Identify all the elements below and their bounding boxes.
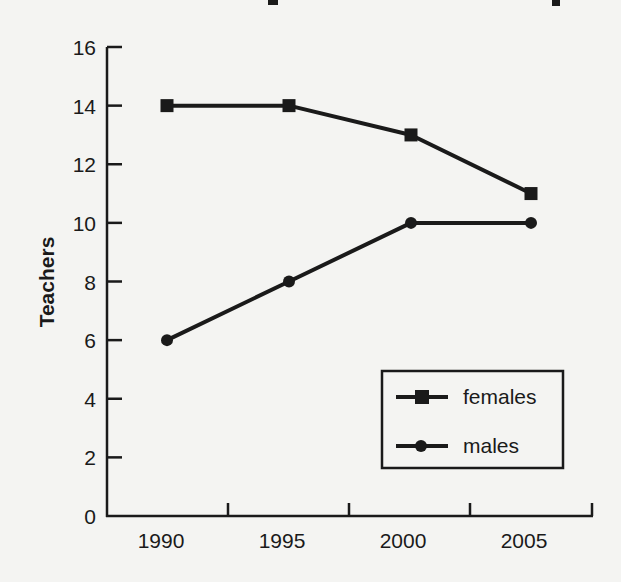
y-tick-label: 10 (73, 212, 96, 235)
legend-label-females: females (463, 385, 537, 408)
x-axis-ticks: 1990199520002005 (138, 503, 592, 552)
series-line (167, 106, 531, 194)
square-marker-icon (283, 99, 296, 112)
chart-canvas: 0246810121416 Teachers 1990199520002005 … (0, 0, 621, 582)
x-tick-label: 2000 (380, 529, 427, 552)
circle-marker-icon (161, 334, 173, 346)
x-axis: 1990199520002005 (106, 503, 593, 552)
y-axis-title: Teachers (35, 237, 58, 328)
y-tick-label: 2 (84, 446, 96, 469)
cutoff-title-remnant (268, 0, 560, 6)
x-tick-label: 1995 (259, 529, 306, 552)
y-tick-label: 6 (84, 329, 96, 352)
y-tick-label: 8 (84, 271, 96, 294)
x-tick-label: 2005 (501, 529, 548, 552)
y-tick-label: 0 (84, 505, 96, 528)
y-axis-ticks: 0246810121416 (73, 36, 122, 528)
circle-marker-icon (525, 217, 537, 229)
square-marker-icon (161, 99, 174, 112)
circle-marker-icon (283, 276, 295, 288)
square-marker-icon (525, 187, 538, 200)
square-marker-icon (405, 128, 418, 141)
y-tick-label: 12 (73, 153, 96, 176)
series-layer (161, 99, 538, 346)
legend: females males (382, 371, 563, 468)
circle-marker-icon (415, 440, 427, 452)
y-tick-label: 14 (73, 95, 97, 118)
y-axis: 0246810121416 Teachers (35, 36, 122, 528)
y-tick-label: 4 (84, 388, 96, 411)
series-males (161, 217, 537, 346)
y-tick-label: 16 (73, 36, 96, 59)
circle-marker-icon (405, 217, 417, 229)
square-marker-icon (415, 390, 429, 404)
line-chart: 0246810121416 Teachers 1990199520002005 … (0, 0, 621, 582)
legend-label-males: males (463, 434, 519, 457)
series-females (161, 99, 538, 200)
x-tick-label: 1990 (138, 529, 185, 552)
series-line (167, 223, 531, 340)
